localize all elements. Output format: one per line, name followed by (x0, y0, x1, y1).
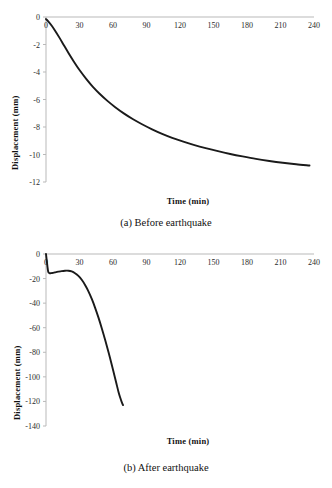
x-tick-label: 180 (241, 21, 253, 30)
x-tick-label: 90 (143, 21, 151, 30)
x-tick-label: 180 (241, 258, 253, 267)
y-tick-label: 0 (36, 250, 40, 259)
x-tick-label: 120 (174, 21, 186, 30)
y-tick-label: -120 (25, 397, 40, 406)
chart-a-y-axis-title: Displacement (mm) (10, 96, 20, 170)
figure-caption-b: (b) After earthquake (0, 462, 332, 473)
figure-caption-a: (a) Before earthquake (0, 217, 332, 228)
y-tick-label: -4 (33, 68, 40, 77)
x-tick-label: 150 (208, 258, 220, 267)
chart-series-line (46, 254, 123, 405)
x-tick-label: 210 (275, 21, 287, 30)
x-tick-label: 30 (76, 258, 84, 267)
y-tick-label: -140 (25, 422, 40, 431)
x-tick-label: 30 (76, 21, 84, 30)
y-tick-label: -8 (33, 123, 40, 132)
x-tick-label: 120 (174, 258, 186, 267)
x-tick-label: 240 (308, 21, 320, 30)
figure-panel-b: 0-20-40-60-80-100-120-140030609012015018… (0, 240, 332, 488)
x-tick-label: 210 (275, 258, 287, 267)
y-tick-label: -40 (29, 299, 40, 308)
y-tick-label: -60 (29, 324, 40, 333)
y-tick-label: -100 (25, 373, 40, 382)
chart-b-plot-area: 0-20-40-60-80-100-120-140030609012015018… (0, 240, 332, 436)
x-tick-label: 240 (308, 258, 320, 267)
x-tick-label: 90 (143, 258, 151, 267)
chart-a-plot-area: 0-2-4-6-8-10-120306090120150180210240 (0, 0, 332, 200)
chart-a-x-axis-title: Time (min) (22, 196, 332, 206)
y-tick-label: -2 (33, 41, 40, 50)
chart-b-y-axis-title: Displacement (mm) (12, 346, 22, 420)
figure-panel-a: 0-2-4-6-8-10-120306090120150180210240 Di… (0, 0, 332, 240)
figure-page: 0-2-4-6-8-10-120306090120150180210240 Di… (0, 0, 332, 488)
y-tick-label: -6 (33, 96, 40, 105)
y-tick-label: -12 (29, 178, 40, 187)
x-tick-label: 60 (109, 258, 117, 267)
y-tick-label: -10 (29, 151, 40, 160)
chart-b-x-axis-title: Time (min) (22, 436, 332, 446)
chart-b-svg: 0-20-40-60-80-100-120-140030609012015018… (0, 240, 332, 436)
x-tick-label: 150 (208, 21, 220, 30)
y-tick-label: -20 (29, 275, 40, 284)
chart-a-svg: 0-2-4-6-8-10-120306090120150180210240 (0, 0, 332, 200)
y-tick-label: 0 (36, 13, 40, 22)
y-tick-label: -80 (29, 348, 40, 357)
chart-series-line (46, 19, 310, 165)
x-tick-label: 60 (109, 21, 117, 30)
x-tick-label: 0 (44, 21, 48, 30)
